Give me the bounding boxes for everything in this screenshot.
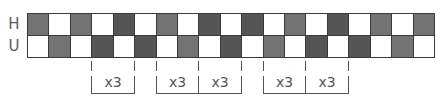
grid-cell bbox=[177, 35, 199, 58]
grid-cell bbox=[348, 13, 371, 36]
grid-cell bbox=[70, 13, 92, 36]
grid-cell bbox=[27, 13, 49, 36]
grid-cell bbox=[134, 13, 157, 36]
grid-cell bbox=[27, 35, 49, 58]
row-label-u: U bbox=[5, 35, 23, 57]
grid-cell bbox=[391, 35, 414, 58]
grid-cell bbox=[70, 35, 92, 58]
grid-cell bbox=[156, 13, 178, 36]
grid-cell bbox=[48, 13, 71, 36]
repeat-count-label: x3 bbox=[91, 74, 135, 90]
grid-cell bbox=[134, 35, 157, 58]
repeat-count-label: x3 bbox=[263, 74, 306, 90]
grid-cell bbox=[113, 13, 135, 36]
grid-cell bbox=[156, 35, 178, 58]
repeat-bracket: x3 bbox=[91, 61, 135, 94]
repeat-bracket: x3 bbox=[263, 61, 306, 94]
grid-cell bbox=[413, 13, 435, 36]
repeat-bracket: x3 bbox=[305, 61, 349, 94]
grid-cell bbox=[113, 35, 135, 58]
grid-cell bbox=[391, 13, 414, 36]
grid-cell bbox=[220, 35, 242, 58]
grid-cell bbox=[370, 35, 392, 58]
grid-cell bbox=[284, 13, 306, 36]
grid-cell bbox=[220, 13, 242, 36]
grid-cell bbox=[241, 13, 264, 36]
grid-cell bbox=[348, 35, 371, 58]
row-label-h: H bbox=[5, 13, 23, 35]
grid-cell bbox=[305, 13, 328, 36]
grid-cell bbox=[327, 35, 349, 58]
grid-cell bbox=[91, 13, 114, 36]
grid-cell bbox=[177, 13, 199, 36]
checkerboard-grid bbox=[27, 13, 434, 57]
repeat-count-label: x3 bbox=[305, 74, 349, 90]
grid-cell bbox=[263, 13, 285, 36]
grid-cell bbox=[198, 13, 221, 36]
repeat-bracket: x3 bbox=[198, 61, 242, 94]
grid-cell bbox=[305, 35, 328, 58]
repeat-bracket: x3 bbox=[156, 61, 199, 94]
grid-cell bbox=[327, 13, 349, 36]
grid-cell bbox=[413, 35, 435, 58]
grid-cell bbox=[370, 13, 392, 36]
grid-cell bbox=[91, 35, 114, 58]
grid-cell bbox=[198, 35, 221, 58]
repeat-count-label: x3 bbox=[156, 74, 199, 90]
grid-cell bbox=[241, 35, 264, 58]
grid-cell bbox=[48, 35, 71, 58]
grid-cell bbox=[284, 35, 306, 58]
grid-cell bbox=[263, 35, 285, 58]
repeat-count-label: x3 bbox=[198, 74, 242, 90]
